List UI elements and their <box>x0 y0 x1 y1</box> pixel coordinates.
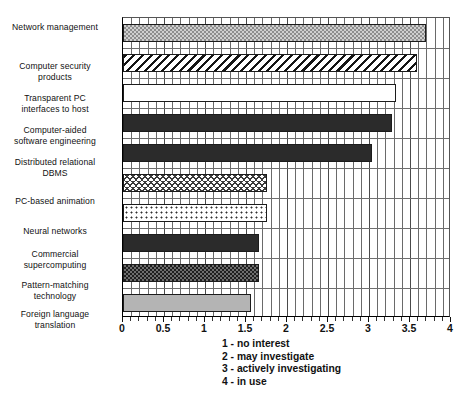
x-tick-minor <box>442 317 443 321</box>
x-tick-minor <box>196 317 197 321</box>
category-label-computer-security-products: Computer security products <box>0 61 110 82</box>
bar-row <box>123 84 449 103</box>
x-tick-minor <box>376 317 377 321</box>
x-tick-minor <box>138 317 139 321</box>
category-label-pc-based-animation: PC-based animation <box>0 196 110 207</box>
x-tick-minor <box>434 317 435 321</box>
x-tick-minor <box>270 317 271 321</box>
row-separator <box>123 288 449 289</box>
category-label-line: Distributed relational <box>0 157 110 168</box>
category-label-line: Transparent PC <box>0 93 110 104</box>
x-tick-minor <box>171 317 172 321</box>
bar-chart: Network management Computer security pro… <box>0 0 471 413</box>
category-label-line: Network management <box>0 22 110 33</box>
category-label-line: DBMS <box>0 168 110 179</box>
x-tick-label-1: 1 <box>189 322 219 334</box>
bar-1[interactable] <box>123 24 426 43</box>
category-label-commercial-supercomputing: Commercial supercomputing <box>0 249 110 270</box>
legend-entry-1: 1 - no interest <box>222 338 452 351</box>
category-label-line: Pattern-matching <box>0 280 110 291</box>
x-tick-minor <box>155 317 156 321</box>
category-label-line: PC-based animation <box>0 196 110 207</box>
x-tick-minor <box>278 317 279 321</box>
x-tick-minor <box>130 317 131 321</box>
legend-entry-2: 2 - may investigate <box>222 351 452 364</box>
row-separator <box>123 138 449 139</box>
row-separator <box>123 48 449 49</box>
bar-row <box>123 54 449 73</box>
category-axis-labels: Network management Computer security pro… <box>0 17 116 317</box>
x-tick-minor <box>294 317 295 321</box>
bar-5[interactable] <box>123 144 372 163</box>
category-label-line: Computer security <box>0 61 110 72</box>
x-tick-minor <box>343 317 344 321</box>
x-tick-minor <box>253 317 254 321</box>
x-axis-tick-labels: 00.511.522.533.54 <box>0 322 471 338</box>
bar-row <box>123 294 449 313</box>
bar-row <box>123 144 449 163</box>
x-tick-minor <box>261 317 262 321</box>
x-tick-minor <box>393 317 394 321</box>
category-label-line: interfaces to host <box>0 104 110 115</box>
row-separator <box>123 258 449 259</box>
bar-4[interactable] <box>123 114 392 133</box>
bar-9[interactable] <box>123 264 259 283</box>
bar-8[interactable] <box>123 234 259 253</box>
bar-7[interactable] <box>123 204 267 223</box>
bar-row <box>123 264 449 283</box>
x-tick-minor <box>179 317 180 321</box>
bar-row <box>123 204 449 223</box>
bar-row <box>123 24 449 43</box>
x-tick-minor <box>212 317 213 321</box>
category-label-line: Computer-aided <box>0 125 110 136</box>
x-tick-label-2.5: 2.5 <box>312 322 342 334</box>
x-tick-minor <box>147 317 148 321</box>
row-separator <box>123 108 449 109</box>
category-label-computer-aided-software-engineering: Computer-aided software engineering <box>0 125 110 146</box>
x-tick-minor <box>352 317 353 321</box>
x-tick-minor <box>302 317 303 321</box>
x-tick-label-2: 2 <box>271 322 301 334</box>
x-tick-label-0.5: 0.5 <box>148 322 178 334</box>
bar-10[interactable] <box>123 294 251 313</box>
x-tick-minor <box>319 317 320 321</box>
x-tick-label-3: 3 <box>353 322 383 334</box>
x-tick-minor <box>220 317 221 321</box>
x-tick-minor <box>229 317 230 321</box>
category-label-transparent-pc-interfaces: Transparent PC interfaces to host <box>0 93 110 114</box>
legend: 1 - no interest 2 - may investigate 3 - … <box>222 338 452 388</box>
bar-6[interactable] <box>123 174 267 193</box>
category-label-line: Commercial <box>0 249 110 260</box>
legend-entry-3: 3 - actively investigating <box>222 363 452 376</box>
category-label-network-management: Network management <box>0 22 110 33</box>
category-label-distributed-relational-dbms: Distributed relational DBMS <box>0 157 110 178</box>
row-separator <box>123 198 449 199</box>
x-tick-minor <box>360 317 361 321</box>
category-label-neural-networks: Neural networks <box>0 226 110 237</box>
x-tick-minor <box>417 317 418 321</box>
row-separator <box>123 228 449 229</box>
category-label-line: software engineering <box>0 136 110 147</box>
bar-3[interactable] <box>123 84 396 103</box>
category-label-line: Neural networks <box>0 226 110 237</box>
bar-2[interactable] <box>123 54 417 73</box>
category-label-line: supercomputing <box>0 260 110 271</box>
x-tick-minor <box>401 317 402 321</box>
x-tick-minor <box>335 317 336 321</box>
x-tick-label-0: 0 <box>107 322 137 334</box>
legend-entry-4: 4 - in use <box>222 376 452 389</box>
x-tick-minor <box>384 317 385 321</box>
x-tick-minor <box>188 317 189 321</box>
category-label-pattern-matching-technology: Pattern-matching technology <box>0 280 110 301</box>
row-separator <box>123 78 449 79</box>
bar-row <box>123 114 449 133</box>
plot-area <box>122 17 450 317</box>
bar-row <box>123 174 449 193</box>
x-tick-label-4: 4 <box>435 322 465 334</box>
x-tick-label-3.5: 3.5 <box>394 322 424 334</box>
category-label-line: technology <box>0 291 110 302</box>
category-label-line: Foreign language <box>0 309 110 320</box>
x-tick-label-1.5: 1.5 <box>230 322 260 334</box>
row-separator <box>123 168 449 169</box>
bar-row <box>123 234 449 253</box>
